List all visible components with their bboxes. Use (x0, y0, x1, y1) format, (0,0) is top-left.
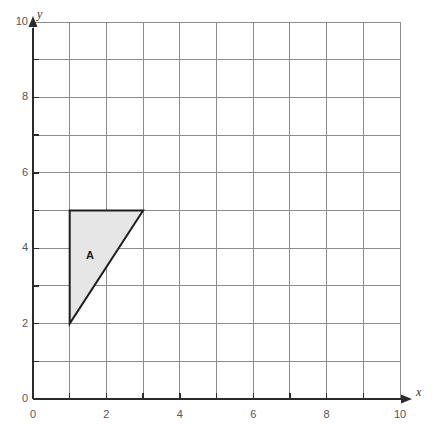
y-tick-label-8: 8 (4, 90, 28, 102)
y-tick-label-4: 4 (4, 241, 28, 253)
y-tick-label-6: 6 (4, 166, 28, 178)
x-tick-label-2: 2 (93, 408, 119, 420)
coordinate-grid-figure: 02468100246810yxA (0, 0, 437, 441)
x-axis-label: x (416, 385, 421, 400)
shape-label-a: A (86, 249, 94, 261)
coordinate-plane-svg (0, 0, 437, 441)
x-tick-label-4: 4 (167, 408, 193, 420)
y-tick-label-0: 0 (4, 392, 28, 404)
y-tick-label-2: 2 (4, 317, 28, 329)
y-axis-label: y (37, 7, 42, 22)
x-tick-label-0: 0 (20, 408, 46, 420)
x-axis-arrowhead (401, 395, 412, 404)
y-tick-label-10: 10 (4, 15, 28, 27)
x-tick-label-10: 10 (387, 408, 413, 420)
x-tick-label-6: 6 (240, 408, 266, 420)
x-tick-label-8: 8 (314, 408, 340, 420)
